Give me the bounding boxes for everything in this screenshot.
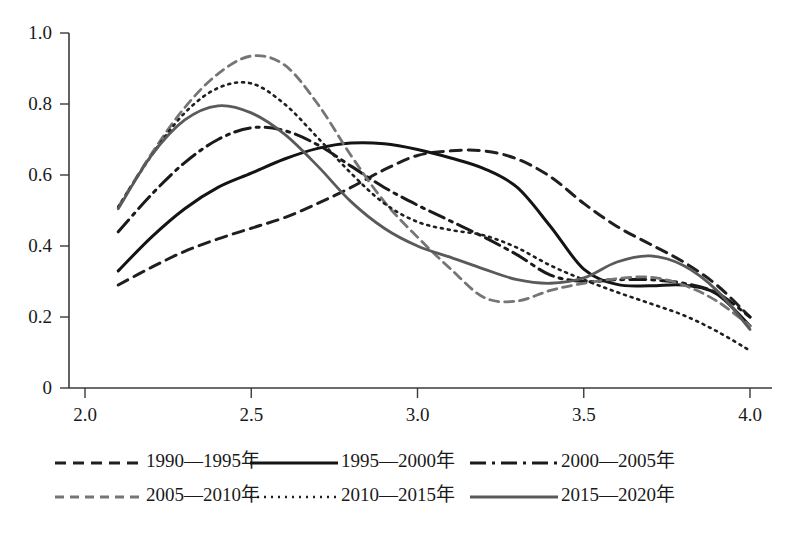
y-tick-label-5: 1.0 <box>28 22 52 43</box>
x-tick-label-3: 3.5 <box>572 404 596 425</box>
legend-item-3[interactable]: 2005—2010年 <box>55 484 260 505</box>
legend-item-2[interactable]: 2000—2005年 <box>470 450 675 471</box>
x-tick-label-1: 2.5 <box>239 404 263 425</box>
legend-label-5: 2015—2020年 <box>561 484 675 505</box>
x-tick-label-0: 2.0 <box>73 404 97 425</box>
legend-item-5[interactable]: 2015—2020年 <box>470 484 675 505</box>
chart-container: 00.20.40.60.81.0 2.02.53.03.54.0 1990—19… <box>0 0 791 539</box>
series-line-4 <box>118 82 750 350</box>
y-axis: 00.20.40.60.81.0 <box>28 22 69 398</box>
legend-label-0: 1990—1995年 <box>146 450 260 471</box>
y-tick-label-3: 0.6 <box>28 164 52 185</box>
series-line-5 <box>118 106 750 330</box>
x-axis: 2.02.53.03.54.0 <box>69 388 772 425</box>
legend-label-2: 2000—2005年 <box>561 450 675 471</box>
legend-item-0[interactable]: 1990—1995年 <box>55 450 260 471</box>
legend-label-1: 1995—2000年 <box>341 450 455 471</box>
line-chart: 00.20.40.60.81.0 2.02.53.03.54.0 1990—19… <box>0 0 791 539</box>
series-line-2 <box>118 127 750 317</box>
legend-item-4[interactable]: 2010—2015年 <box>250 484 455 505</box>
series-line-0 <box>118 150 750 317</box>
legend-label-3: 2005—2010年 <box>146 484 260 505</box>
legend-label-4: 2010—2015年 <box>341 484 455 505</box>
x-tick-label-4: 4.0 <box>738 404 762 425</box>
y-tick-label-2: 0.4 <box>28 235 52 256</box>
legend-item-1[interactable]: 1995—2000年 <box>250 450 455 471</box>
x-tick-label-2: 3.0 <box>406 404 430 425</box>
chart-legend: 1990—1995年1995—2000年2000—2005年2005—2010年… <box>55 450 675 505</box>
y-tick-label-1: 0.2 <box>28 306 52 327</box>
y-tick-label-4: 0.8 <box>28 93 52 114</box>
series-layer <box>118 56 750 351</box>
y-tick-label-0: 0 <box>43 377 53 398</box>
series-line-1 <box>118 143 750 326</box>
